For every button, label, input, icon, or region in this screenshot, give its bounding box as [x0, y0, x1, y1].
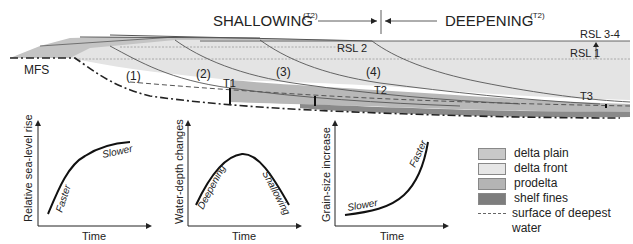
legend-label: delta plain	[514, 147, 569, 160]
graph3-xlabel: Time	[380, 230, 404, 242]
dashed-line-icon	[478, 213, 506, 214]
graph1-xlabel: Time	[82, 230, 106, 242]
legend-label: prodelta	[514, 177, 557, 190]
legend-item-prodelta: prodelta	[478, 176, 611, 191]
deepening-superscript: (T2)	[530, 11, 545, 20]
legend-item-deepest-water: surface of deepest	[478, 206, 611, 221]
delta-front-swatch	[478, 163, 506, 175]
t3-label: T3	[580, 90, 593, 102]
legend-label: delta front	[514, 162, 567, 175]
graph2-shallowing: Shallowing	[260, 169, 293, 217]
shelf-fines-swatch	[478, 193, 506, 205]
legend-label: shelf fines	[514, 192, 568, 205]
legend-label: water	[512, 222, 541, 235]
legend-item-delta-plain: delta plain	[478, 146, 611, 161]
shallowing-deepening-header	[318, 10, 437, 34]
graph2-ylabel: Water-depth changes	[173, 119, 185, 224]
legend-item-shelf-fines: shelf fines	[478, 191, 611, 206]
graph2-deepening: Deepening	[195, 163, 228, 211]
legend-item-delta-front: delta front	[478, 161, 611, 176]
prodelta-swatch	[478, 178, 506, 190]
rsl-3-4-label: RSL 3-4	[580, 28, 620, 40]
graph3-ylabel: Grain-size increase	[320, 127, 332, 222]
clinoform-1-label: (1)	[126, 69, 141, 83]
delta-plain-swatch	[478, 148, 506, 160]
t2-label: T2	[374, 84, 387, 96]
graph1-faster: Faster	[53, 183, 72, 214]
deepening-label: DEEPENING	[445, 12, 533, 29]
cross-section	[10, 35, 630, 118]
shallowing-superscript: (T2)	[303, 11, 318, 20]
clinoform-3-label: (3)	[276, 65, 291, 79]
clinoform-4-label: (4)	[366, 65, 381, 79]
graph-sea-level	[35, 120, 152, 229]
graph1-ylabel: Relative sea-level rise	[22, 114, 34, 222]
clinoform-2-label: (2)	[196, 67, 211, 81]
legend: delta plain delta front prodelta shelf f…	[478, 146, 611, 236]
mfs-label: MFS	[24, 63, 49, 77]
shallowing-label: SHALLOWING	[213, 12, 313, 29]
rsl-2-label: RSL 2	[337, 42, 367, 54]
t1-label: T1	[223, 77, 236, 89]
graph2-xlabel: Time	[232, 230, 256, 242]
legend-item-deepest-water-cont: water	[478, 221, 611, 236]
legend-label: surface of deepest	[512, 207, 611, 220]
rsl-1-label: RSL 1	[570, 47, 600, 59]
